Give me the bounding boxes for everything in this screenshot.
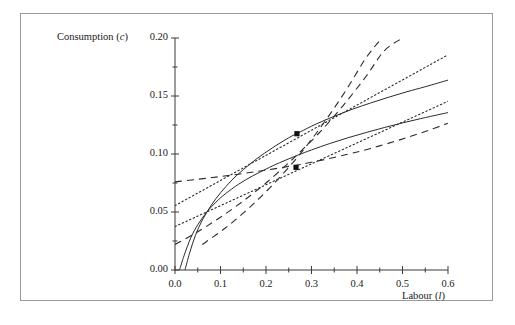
x-axis-tick-label: 0.6 [435,278,461,289]
y-axis-title: Consumption (c) [57,31,128,42]
x-axis-tick-label: 0.1 [208,278,234,289]
x-axis-tick-label: 0.4 [344,278,370,289]
data-point-equilibrium-lower [293,165,298,170]
x-axis-title-text: Labour (l) [402,290,445,301]
x-axis-tick-label: 0.2 [253,278,279,289]
data-point-equilibrium-upper [294,131,299,136]
y-axis-tick-label: 0.20 [132,31,168,42]
x-axis-title: Labour (l) [402,290,445,301]
x-axis-tick-label: 0.5 [390,278,416,289]
y-axis-tick-label: 0.05 [132,205,168,216]
y-axis-title-text: Consumption (c) [57,31,128,42]
y-axis-tick-label: 0.10 [132,147,168,158]
y-axis-tick-label: 0.15 [132,89,168,100]
x-axis-tick-label: 0.3 [299,278,325,289]
series-indifference-curve-flat [175,123,448,182]
series-budget-line-upper [175,55,448,206]
series-indifference-curve-steep [175,38,403,244]
y-axis-tick-label: 0.00 [132,263,168,274]
x-axis-tick-label: 0.0 [162,278,188,289]
series-budget-line-lower [175,101,448,226]
series-production-function-lower [185,80,448,270]
chart-canvas [0,0,515,325]
